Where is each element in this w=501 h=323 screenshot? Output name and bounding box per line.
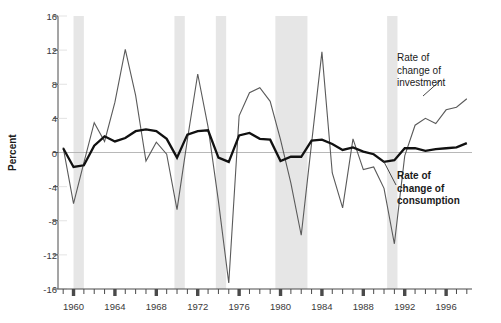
x-axis-tick-label: 1964 (104, 301, 125, 312)
x-axis-tick-label: 1980 (270, 301, 291, 312)
x-axis-tick-label: 1988 (353, 301, 374, 312)
series-line-consumption (63, 129, 467, 167)
x-axis-tick-label: 1976 (229, 301, 250, 312)
annotation-consumption: Rate of change of consumption (397, 170, 460, 208)
annotation-investment: Rate of change of investment (397, 52, 445, 90)
x-axis-tick-label: 1968 (146, 301, 167, 312)
x-axis-tick-label: 1960 (63, 301, 84, 312)
x-axis-tick-label: 1972 (187, 301, 208, 312)
x-axis-tick-label: 1984 (311, 301, 332, 312)
x-axis-tick-label: 1996 (436, 301, 457, 312)
x-axis-tick-label: 1992 (394, 301, 415, 312)
chart-container: Percent 1612840-4-8-12-16 19601964196819… (0, 0, 501, 323)
plot-area (0, 0, 501, 323)
